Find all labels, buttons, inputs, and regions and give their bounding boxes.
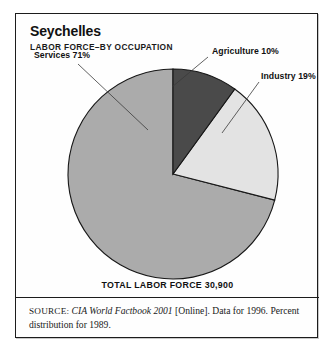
pie-chart-area: Services 71% Agriculture 10% Industry 19… xyxy=(16,14,319,286)
source-note: SOURCE: CIA World Factbook 2001 [Online]… xyxy=(29,304,309,332)
source-label: SOURCE: xyxy=(29,306,69,316)
source-divider xyxy=(16,297,319,298)
total-labor-force-label: TOTAL LABOR FORCE 30,900 xyxy=(16,280,319,290)
figure-frame: Seychelles LABOR FORCE–BY OCCUPATION Ser… xyxy=(15,13,318,338)
source-work-title: CIA World Factbook 2001 xyxy=(72,305,173,316)
pie-label-industry: Industry 19% xyxy=(261,71,316,81)
pie-label-services: Services 71% xyxy=(34,50,90,60)
pie-label-agriculture: Agriculture 10% xyxy=(212,46,279,56)
pie-chart-svg: Services 71% Agriculture 10% Industry 19… xyxy=(16,14,319,286)
